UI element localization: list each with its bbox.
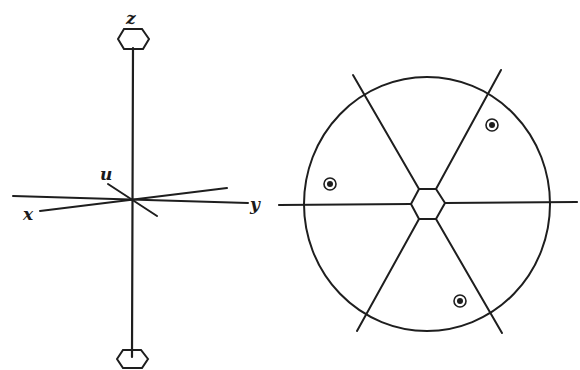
- z-label: z: [125, 8, 136, 28]
- top-hexagon-icon: [118, 29, 149, 49]
- spoke-lower-left: [357, 219, 419, 331]
- diagram-canvas: z u x y: [0, 0, 580, 370]
- spoke-right: [445, 202, 577, 203]
- marker-upper-right: [486, 119, 498, 131]
- center-hexagon-icon: [411, 189, 445, 219]
- x-label: x: [22, 204, 34, 224]
- left-axis-figure: z u x y: [13, 8, 261, 368]
- u-label: u: [100, 164, 112, 184]
- spoke-upper-left: [353, 75, 419, 189]
- y-label: y: [249, 194, 261, 214]
- spoke-left: [279, 204, 411, 205]
- spoke-lower-right: [436, 219, 502, 333]
- z-axis-line: [132, 48, 133, 357]
- right-projection-figure: [279, 70, 577, 333]
- marker-lower: [454, 295, 466, 307]
- marker-left: [324, 178, 336, 190]
- spoke-upper-right: [436, 70, 501, 189]
